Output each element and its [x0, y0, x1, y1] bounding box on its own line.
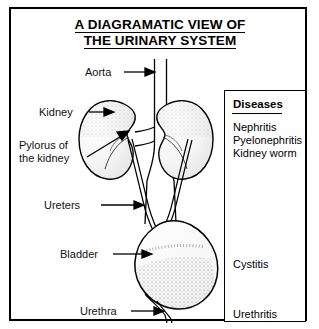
diseases-heading: Diseases — [233, 98, 283, 110]
label-urethra: Urethra — [80, 305, 117, 318]
label-pylorus-line1: Pylorus of — [19, 139, 68, 151]
label-bladder: Bladder — [60, 248, 98, 261]
diseases-heading-underline — [232, 113, 282, 114]
bladder — [123, 221, 221, 313]
diseases-upper-list: Nephritis Pyelonephritis Kidney worm — [233, 121, 302, 160]
disease-item-cystitis: Cystitis — [233, 258, 268, 270]
label-aorta: Aorta — [85, 66, 111, 79]
urinary-system-figure: A DIAGRAMATIC VIEW OF THE URINARY SYSTEM — [0, 0, 319, 329]
label-kidney: Kidney — [39, 106, 73, 119]
bladder-arrow — [113, 250, 152, 258]
ureters-arrow — [101, 201, 144, 209]
disease-item: Pyelonephritis — [233, 134, 302, 147]
diseases-panel: Diseases Nephritis Pyelonephritis Kidney… — [224, 90, 306, 322]
disease-item: Kidney worm — [233, 147, 302, 160]
disease-item: Nephritis — [233, 121, 302, 134]
label-pylorus-line2: the kidney — [19, 152, 69, 164]
right-kidney — [151, 97, 221, 179]
figure-frame: A DIAGRAMATIC VIEW OF THE URINARY SYSTEM — [9, 7, 307, 321]
aorta-arrow — [124, 68, 155, 76]
label-ureters: Ureters — [44, 199, 80, 212]
disease-item-urethritis: Urethritis — [233, 308, 277, 320]
label-pylorus: Pylorus of the kidney — [19, 139, 105, 164]
